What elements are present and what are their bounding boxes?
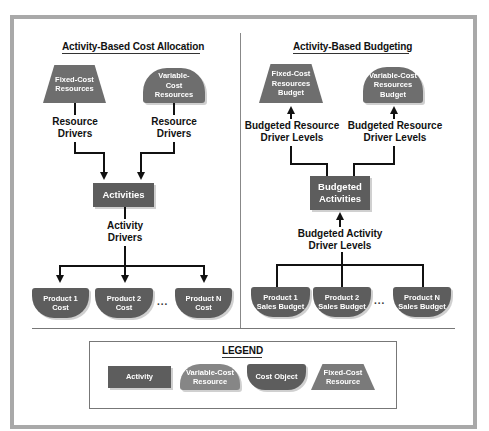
label-line: Product N	[186, 294, 222, 303]
legend-variable-label: Variable-Cost Resource	[186, 368, 234, 387]
label-line: Budgeted	[318, 181, 362, 192]
connector	[393, 146, 395, 164]
arrow-down-icon	[137, 172, 145, 180]
connector	[59, 265, 205, 267]
arrow-down-icon	[121, 275, 129, 283]
label-line: Resource	[193, 377, 227, 386]
product-label: Product NCost	[186, 294, 222, 313]
label-line: Activity	[107, 220, 143, 231]
product-label: Product 1Cost	[43, 294, 78, 313]
connector	[326, 163, 328, 177]
resource-drivers-right-label: Resource Drivers	[143, 116, 205, 140]
activity-drivers-label: Activity Drivers	[95, 220, 155, 244]
label-line: Budget	[380, 90, 406, 99]
label-line: Drivers	[58, 128, 92, 139]
connector	[140, 152, 175, 154]
product-label: Product 2Cost	[107, 294, 142, 313]
connector	[74, 152, 105, 154]
product-n-sales-budget: Product NSales Budget	[393, 287, 451, 317]
label-line: Driver Levels	[364, 132, 427, 143]
label-line: Budget	[278, 88, 304, 97]
label-line: Resources	[374, 80, 412, 89]
activities-label: Activities	[102, 190, 144, 200]
ellipsis: ...	[157, 296, 168, 307]
connector	[353, 163, 355, 177]
variable-cost-resources-label: Variable- Cost Resources	[155, 71, 193, 100]
label-line: Variable-Cost	[369, 71, 417, 80]
label-line: Cost	[166, 81, 183, 90]
variable-cost-resources-shape: Variable- Cost Resources	[143, 68, 205, 103]
connector	[339, 219, 341, 227]
fixed-cost-budget-label: Fixed-Cost Resources Budget	[272, 69, 311, 98]
arrow-down-icon	[56, 275, 64, 283]
label-line: Cost	[195, 303, 212, 312]
budgeted-resource-driver-levels-left: Budgeted Resource Driver Levels	[244, 120, 340, 144]
connector	[124, 207, 126, 219]
connector	[74, 103, 76, 115]
label-line: Activities	[319, 193, 361, 204]
connector	[341, 264, 343, 288]
label-line: Budgeted Resource	[348, 120, 442, 131]
legend-divider	[32, 328, 455, 329]
label-line: Product N	[404, 293, 440, 302]
label-line: Product 2	[325, 293, 360, 302]
connector	[276, 264, 278, 288]
product-1-sales-budget: Product 1Sales Budget	[251, 287, 310, 317]
label-line: Driver Levels	[261, 132, 324, 143]
product-label: Product 2Sales Budget	[318, 293, 366, 312]
label-line: Resource	[326, 377, 360, 386]
connector	[103, 152, 105, 174]
label-line: Cost	[52, 303, 69, 312]
panel-divider	[240, 33, 241, 328]
product-2-sales-budget: Product 2Sales Budget	[313, 287, 371, 317]
product-label: Product NSales Budget	[398, 293, 446, 312]
label-line: Budgeted Resource	[245, 120, 339, 131]
right-panel-title: Activity-Based Budgeting	[293, 41, 409, 54]
label-line: Sales Budget	[318, 302, 366, 311]
connector	[290, 146, 292, 164]
connector	[290, 163, 327, 165]
connector	[290, 113, 292, 119]
legend-title: LEGEND	[222, 345, 262, 358]
arrow-down-icon	[200, 275, 208, 283]
label-line: Drivers	[157, 128, 191, 139]
left-panel-title: Activity-Based Cost Allocation	[62, 41, 200, 54]
ellipsis: ...	[374, 295, 385, 306]
budgeted-activities-box: Budgeted Activities	[310, 176, 370, 210]
resource-drivers-left-label: Resource Drivers	[44, 116, 106, 140]
label-line: Drivers	[108, 232, 142, 243]
budgeted-activity-driver-levels: Budgeted Activity Driver Levels	[290, 228, 390, 252]
label-line: Driver Levels	[309, 240, 372, 251]
label-line: Cost	[116, 303, 133, 312]
legend-cost-object: Cost Object	[247, 364, 306, 390]
label-line: Resources	[155, 90, 193, 99]
budgeted-resource-driver-levels-right: Budgeted Resource Driver Levels	[347, 120, 443, 144]
connector	[140, 152, 142, 174]
fixed-cost-resources-label: Fixed-Cost Resources	[53, 75, 97, 94]
label-line: Fixed-Cost	[272, 69, 311, 78]
legend-activity: Activity	[108, 366, 171, 388]
legend-cost-object-label: Cost Object	[255, 372, 297, 382]
label-line: Resource	[52, 116, 98, 127]
budgeted-activities-label: Budgeted Activities	[318, 181, 362, 205]
connector	[124, 246, 126, 266]
legend-variable-cost-resource: Variable-Cost Resource	[180, 364, 240, 390]
label-line: Fixed-Cost	[324, 368, 363, 377]
label-line: Product 1	[263, 293, 298, 302]
connector	[422, 264, 424, 288]
product-label: Product 1Sales Budget	[257, 293, 305, 312]
label-line: Resources	[272, 79, 310, 88]
label-line: Budgeted Activity	[298, 228, 383, 239]
connector	[393, 113, 395, 119]
connector	[276, 264, 424, 266]
activities-box: Activities	[93, 183, 154, 207]
label-line: Product 1	[43, 294, 78, 303]
label-line: Product 2	[107, 294, 142, 303]
connector	[353, 163, 395, 165]
label-line: Variable-	[158, 71, 189, 80]
legend-fixed-label: Fixed-Cost Resource	[324, 368, 363, 387]
label-line: Sales Budget	[257, 302, 305, 311]
variable-cost-budget-label: Variable-Cost Resources Budget	[369, 71, 417, 100]
label-line: Resource	[151, 116, 197, 127]
variable-cost-resources-budget-shape: Variable-Cost Resources Budget	[363, 67, 423, 103]
